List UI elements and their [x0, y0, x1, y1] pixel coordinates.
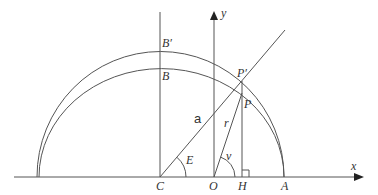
- label-a: a: [194, 111, 202, 126]
- ellipse: [39, 69, 284, 177]
- y-axis-arrow-icon: [210, 11, 218, 20]
- x-axis-arrow-icon: [354, 173, 364, 181]
- label-C: C: [156, 179, 165, 193]
- label-O: O: [209, 179, 218, 193]
- label-P-prime: P′: [236, 66, 247, 80]
- label-P: P: [243, 97, 252, 111]
- label-A: A: [280, 179, 289, 193]
- angle-E-arc: [177, 157, 186, 177]
- label-B-prime: B′: [162, 36, 172, 50]
- label-v: v: [226, 149, 232, 163]
- line-O-P: [214, 93, 242, 177]
- label-y: y: [220, 6, 227, 20]
- label-B: B: [162, 69, 170, 83]
- label-E: E: [185, 153, 194, 167]
- line-C-Pprime: [160, 30, 285, 177]
- right-angle-marker: [242, 170, 249, 177]
- diagram-canvas: B′ B P′ P a r E v C O H A x y: [0, 0, 378, 195]
- label-x: x: [350, 159, 357, 173]
- label-r: r: [224, 116, 229, 130]
- label-H: H: [237, 179, 248, 193]
- orbit-diagram: B′ B P′ P a r E v C O H A x y: [0, 0, 378, 195]
